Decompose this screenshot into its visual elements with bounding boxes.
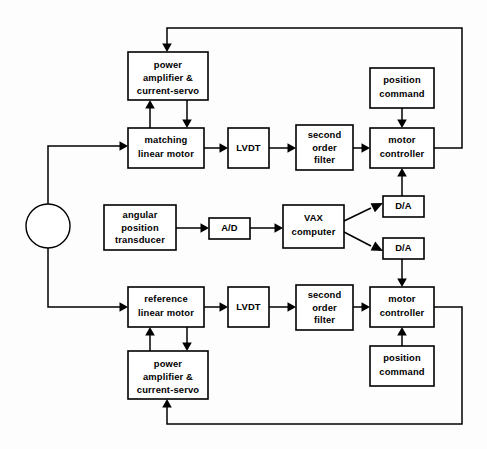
arrowhead-into-matching-linear-motor	[182, 120, 192, 129]
block-label-line-1: LVDT	[236, 142, 261, 153]
block-label-line-3: filter	[314, 154, 335, 165]
block-label-line-2: order	[312, 142, 337, 153]
block-top-power-amplifier: power amplifier & current-servo	[128, 52, 208, 100]
block-label-line-1: VAX	[304, 212, 324, 223]
block-top-second-order-filter: second order filter	[296, 125, 353, 170]
block-bottom-power-amplifier: power amplifier & current-servo	[128, 351, 208, 399]
block-label-line-2: controller	[380, 307, 425, 318]
block-reference-linear-motor: reference linear motor	[128, 287, 204, 327]
block-label-line-3: current-servo	[137, 384, 200, 395]
arrowhead-into-bottom-lvdt	[220, 302, 229, 312]
block-label-line-3: transducer	[115, 234, 165, 245]
arrowhead-into-top-motor-controller-from-poscmd	[397, 120, 407, 129]
diagram-canvas: power amplifier & current-servo matching…	[0, 0, 487, 449]
arrowhead-into-matching-linear-motor-left	[120, 141, 129, 151]
arrowhead-into-reference-linear-motor-left	[120, 302, 129, 312]
block-bottom-second-order-filter: second order filter	[296, 285, 353, 330]
block-label-line-1: A/D	[221, 222, 238, 233]
block-bottom-motor-controller: motor controller	[370, 287, 434, 327]
block-label-line-2: command	[379, 366, 424, 377]
arrowhead-into-top-second-order-filter	[288, 143, 297, 153]
arrowhead-into-top-lvdt	[220, 143, 229, 153]
arrowhead-into-top-motor-controller-from-da	[397, 168, 407, 177]
block-label-line-2: command	[379, 88, 424, 99]
block-label-line-1: position	[383, 74, 421, 85]
block-label-line-1: D/A	[395, 242, 412, 253]
block-label-line-1: LVDT	[236, 301, 261, 312]
arrowhead-into-top-motor-controller	[362, 143, 371, 153]
block-label-line-2: position	[121, 222, 159, 233]
block-label-line-1: power	[154, 59, 183, 70]
block-da-converter-top: D/A	[383, 196, 424, 217]
block-label-line-1: angular	[123, 209, 158, 220]
block-label-line-1: position	[383, 352, 421, 363]
arrowhead-into-da-converter-top	[371, 203, 384, 212]
block-label-line-1: matching	[145, 134, 188, 145]
block-label-line-3: current-servo	[137, 85, 200, 96]
arrowhead-into-ad-converter	[201, 223, 210, 233]
arrowhead-into-da-converter-bottom	[371, 242, 383, 251]
wire-vax-to-da-top	[344, 208, 371, 221]
block-label-line-1: motor	[388, 293, 416, 304]
arrowhead-into-top-power-amplifier-feedback	[145, 100, 155, 109]
arrowhead-into-bottom-motor-controller-from-da	[397, 279, 407, 288]
block-label-line-2: order	[312, 302, 337, 313]
wire-vax-to-da-bottom	[344, 232, 371, 246]
arrowhead-into-reference-linear-motor-bottom	[145, 327, 155, 336]
summing-junction-circle	[26, 204, 70, 248]
arrowhead-into-vax-computer	[275, 223, 284, 233]
block-da-converter-bottom: D/A	[383, 238, 424, 259]
wire-junction-to-matching-linear-motor	[48, 146, 120, 204]
arrowhead-into-bottom-second-order-filter	[288, 302, 297, 312]
block-diagram-figure: power amplifier & current-servo matching…	[0, 0, 487, 449]
block-bottom-lvdt: LVDT	[228, 287, 269, 327]
block-top-motor-controller: motor controller	[370, 128, 434, 168]
block-label-line-1: reference	[144, 293, 188, 304]
block-bottom-position-command: position command	[370, 346, 434, 386]
block-label-line-3: filter	[314, 314, 335, 325]
block-label-line-2: controller	[380, 148, 425, 159]
block-top-lvdt: LVDT	[228, 128, 269, 168]
block-label-line-1: second	[308, 129, 342, 140]
arrowhead-into-bottom-motor-controller-from-poscmd	[397, 327, 407, 336]
arrowhead-into-bottom-motor-controller	[362, 302, 371, 312]
block-label-line-1: D/A	[395, 200, 412, 211]
block-label-line-1: second	[308, 289, 342, 300]
arrowhead-into-bottom-power-amplifier	[162, 399, 172, 408]
block-label-line-2: amplifier &	[143, 371, 193, 382]
block-matching-linear-motor: matching linear motor	[128, 128, 204, 168]
block-vax-computer: VAX computer	[283, 205, 344, 248]
block-label-line-1: power	[154, 358, 183, 369]
block-label-line-1: motor	[388, 134, 416, 145]
block-label-line-2: amplifier &	[143, 72, 193, 83]
block-label-line-2: linear motor	[138, 307, 194, 318]
arrowhead-into-bottom-power-amplifier-from-motor	[182, 343, 192, 352]
block-angular-position-transducer: angular position transducer	[104, 205, 176, 250]
arrowhead-into-top-power-amplifier	[162, 44, 172, 53]
block-ad-converter: A/D	[209, 218, 250, 239]
block-label-line-2: linear motor	[138, 148, 194, 159]
block-label-line-2: computer	[292, 226, 336, 237]
block-top-position-command: position command	[370, 68, 434, 108]
wire-junction-to-reference-linear-motor	[48, 248, 120, 307]
